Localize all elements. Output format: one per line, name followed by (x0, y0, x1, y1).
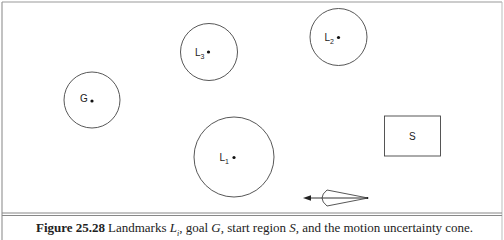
figure-number: Figure 25.28 (36, 220, 105, 236)
landmark-l3-point (207, 50, 210, 53)
goal-region: G (64, 72, 120, 128)
landmark-l3: L3 (181, 24, 238, 81)
motion-arrow-head-icon (303, 195, 311, 201)
landmark-l1: L1 (194, 117, 274, 197)
motion-uncertainty-cone (303, 190, 368, 206)
start-region-label: S (409, 131, 416, 142)
landmark-l2: L2 (310, 9, 367, 66)
figure-caption: Figure 25.28 Landmarks Li, goal G, start… (0, 216, 504, 240)
landmark-l2-point (337, 36, 340, 39)
start-region: S (385, 116, 441, 156)
landmark-l1-label: L1 (220, 152, 230, 165)
figure-diagram: G L3 L2 L1 S (0, 0, 504, 240)
landmark-l1-point (232, 156, 235, 159)
landmark-l3-label: L3 (195, 47, 205, 60)
goal-point (90, 99, 93, 102)
caption-text: Landmarks Li, goal G, start region S, an… (108, 220, 473, 238)
goal-label: G (80, 93, 88, 104)
landmark-l2-label: L2 (325, 32, 335, 45)
cone-apex (367, 197, 369, 199)
